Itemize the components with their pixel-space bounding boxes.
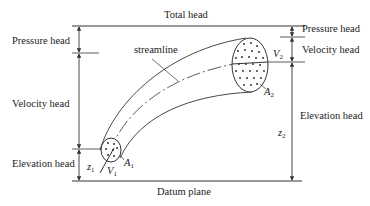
cross-section-a2	[232, 38, 268, 92]
datum-plane-label: Datum plane	[157, 187, 211, 198]
a1-label: A1	[124, 158, 134, 170]
a2-label: A2	[264, 87, 274, 99]
right-velocity-head-label: Velocity head	[302, 45, 359, 56]
z1-label: z1	[87, 162, 95, 174]
streamtube-lower-boundary	[120, 92, 252, 158]
left-pressure-head-label: Pressure head	[12, 36, 70, 47]
streamline-leader	[152, 59, 178, 81]
left-velocity-head-label: Velocity head	[12, 99, 69, 110]
v2-label: V2	[273, 49, 283, 61]
v1-label: V1	[107, 166, 117, 178]
right-elevation-head-label: Elevation head	[300, 111, 363, 122]
left-elevation-head-label: Elevation head	[12, 159, 75, 170]
streamline-label: streamline	[134, 45, 178, 56]
right-pressure-head-label: Pressure head	[302, 24, 360, 35]
z2-label: z2	[278, 128, 286, 140]
total-head-label: Total head	[164, 10, 208, 21]
